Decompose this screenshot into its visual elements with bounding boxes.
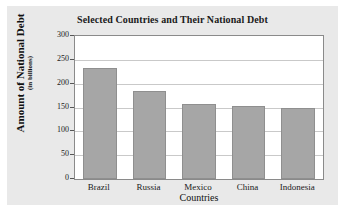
bar-slot	[75, 36, 125, 179]
x-axis-tick-label-indonesia: Indonesia	[272, 182, 322, 192]
bar-slot	[224, 36, 274, 179]
x-axis-tick-label-mexico: Mexico	[173, 182, 223, 192]
bar-slot	[273, 36, 323, 179]
y-axis-tick-label: 250	[45, 55, 69, 63]
bar-china	[232, 106, 266, 179]
plot-area	[74, 35, 324, 180]
y-axis-tick-label: 50	[45, 150, 69, 158]
y-axis-tick-labels: 300250200150100500	[43, 35, 69, 178]
y-axis-title: Amount of National Debt (in billions)	[14, 13, 44, 133]
x-axis-tick-label-russia: Russia	[124, 182, 174, 192]
y-axis-tick-label: 150	[45, 103, 69, 111]
y-axis-tick-label: 0	[45, 174, 69, 182]
x-axis-title: Countries	[74, 192, 324, 203]
y-axis-title-units: (in billions)	[26, 13, 35, 133]
y-axis-title-main: Amount of National Debt	[14, 13, 26, 133]
bar-series	[75, 36, 323, 179]
bar-slot	[174, 36, 224, 179]
bar-russia	[133, 91, 167, 179]
chart-title: Selected Countries and Their National De…	[7, 14, 338, 25]
y-axis-tick-label: 200	[45, 79, 69, 87]
bar-slot	[125, 36, 175, 179]
x-axis-tick-label-china: China	[223, 182, 273, 192]
y-axis-tick-label: 100	[45, 126, 69, 134]
bar-mexico	[182, 104, 216, 179]
x-axis-tick-label-brazil: Brazil	[74, 182, 124, 192]
chart-figure: Selected Countries and Their National De…	[7, 6, 338, 205]
bar-indonesia	[281, 108, 315, 179]
bar-brazil	[83, 68, 117, 179]
y-axis-tick-label: 300	[45, 31, 69, 39]
